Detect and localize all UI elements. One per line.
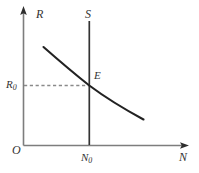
origin-label: O [12,144,21,156]
equilibrium-point-label: E [94,70,101,81]
y-tick-subscript: 0 [13,83,17,92]
y-axis-label: R [36,8,43,20]
y-tick-base: R [6,78,13,90]
x-tick-label-n0: N0 [81,152,92,165]
supply-curve-label: S [85,8,91,20]
demand-curve-path [44,47,144,120]
supply-demand-figure: R N S E R0 N0 O [0,0,199,173]
y-tick-label-r0: R0 [6,79,17,92]
plot-canvas [0,0,199,173]
x-axis-label: N [179,151,187,163]
x-tick-subscript: 0 [88,156,92,165]
